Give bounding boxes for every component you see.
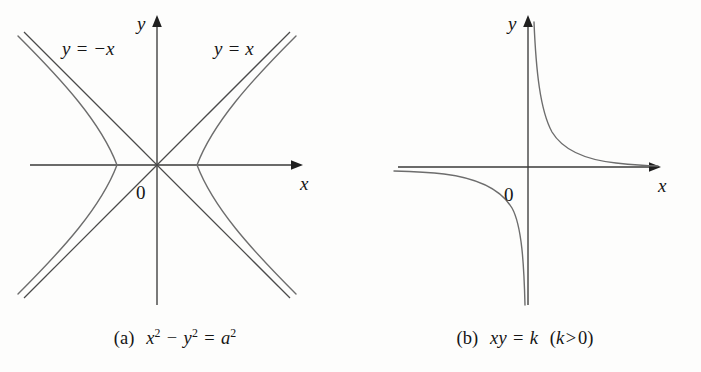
caption-a-y-exponent: 2 (192, 326, 198, 340)
axis-label-y-b: y (506, 13, 517, 34)
asymptote-label-negative-lhs: y (60, 38, 71, 59)
axis-label-x-b: x (657, 175, 667, 196)
caption-a-equals: = (203, 328, 217, 348)
caption-a-y: y (184, 328, 192, 348)
panel-b-plot: y x 0 (350, 0, 700, 325)
caption-a-minus: − (165, 328, 179, 348)
panel-a-hyperbola-standard: y x 0 y=−x y=x (a) x2 − y2 = a2 (0, 0, 350, 372)
panel-a-plot: y x 0 y=−x y=x (0, 0, 350, 325)
x-axis-group-a (30, 160, 303, 170)
origin-label-b: 0 (504, 184, 514, 205)
hyperbola-figure: y x 0 y=−x y=x (a) x2 − y2 = a2 (0, 0, 701, 372)
caption-b-xy: xy (490, 328, 507, 348)
caption-panel-a: (a) x2 − y2 = a2 (0, 328, 350, 349)
caption-a-a: a (221, 328, 230, 348)
asymptote-label-positive-rhs: x (244, 38, 254, 59)
y-axis-group-a (152, 15, 162, 305)
caption-a-a-exponent: 2 (230, 326, 236, 340)
axis-label-x-a: x (299, 173, 309, 194)
asymptote-label-negative: y=−x (60, 38, 115, 59)
origin-label-a: 0 (136, 182, 146, 203)
caption-a-x: x (146, 328, 154, 348)
caption-a-prefix: (a) (114, 328, 135, 348)
caption-a-x-exponent: 2 (155, 326, 161, 340)
asymptote-label-positive: y=x (212, 38, 254, 59)
caption-b-prefix: (b) (456, 328, 478, 348)
x-axis-arrowhead (649, 162, 661, 172)
caption-b-equals: = (511, 328, 525, 348)
asymptote-label-positive-eq: = (227, 38, 240, 59)
caption-b-paren-close: ) (587, 328, 593, 348)
asymptote-label-negative-eq: = (75, 38, 88, 59)
y-axis-arrowhead (523, 15, 533, 27)
panel-b-hyperbola-rectangular: y x 0 (b) xy = k (k>0) (350, 0, 700, 372)
hyperbola-branch-quadrant-I (534, 22, 658, 166)
caption-b-zero: 0 (578, 328, 587, 348)
caption-panel-b: (b) xy = k (k>0) (350, 328, 700, 349)
y-axis-group-b (523, 15, 533, 305)
axis-label-y-a: y (135, 13, 146, 34)
y-axis-arrowhead (152, 15, 162, 27)
caption-b-greater-than: > (564, 328, 578, 348)
asymptote-label-negative-rhs: −x (93, 38, 115, 59)
asymptote-label-positive-lhs: y (212, 38, 223, 59)
caption-b-k: k (530, 328, 538, 348)
x-axis-arrowhead (291, 160, 303, 170)
